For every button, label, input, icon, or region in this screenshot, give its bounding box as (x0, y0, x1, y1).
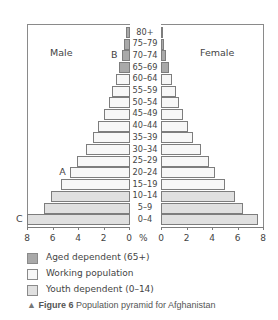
tick-label: 4 (71, 233, 85, 243)
tick-label: 6 (231, 233, 245, 243)
male-bar (93, 132, 130, 143)
female-bar (161, 203, 243, 214)
legend-swatch-youth (27, 285, 38, 296)
female-bar (161, 179, 225, 190)
tick-mark (129, 227, 130, 230)
tick-label: 6 (46, 233, 60, 243)
female-bar (161, 39, 164, 50)
tick-mark (161, 227, 162, 230)
male-bar (86, 144, 130, 155)
age-group-label: 15–19 (129, 179, 161, 191)
female-bar (161, 27, 163, 38)
female-bar (161, 50, 166, 61)
female-label: Female (200, 47, 234, 58)
tick-label: 2 (180, 233, 194, 243)
tick-mark (187, 227, 188, 230)
male-bar (77, 156, 130, 167)
male-bar (112, 86, 130, 97)
age-group-label: 25–29 (129, 155, 161, 167)
tick-label: 8 (256, 233, 270, 243)
triangle-marker-icon: ▲ (27, 300, 36, 310)
caption-text: Population pyramid for Afghanistan (76, 300, 216, 310)
legend-swatch-aged (27, 253, 38, 264)
male-bar (116, 74, 130, 85)
figure-number: Figure 6 (38, 300, 73, 310)
figure-caption: ▲ Figure 6 Population pyramid for Afghan… (27, 300, 216, 310)
tick-mark (238, 227, 239, 230)
male-bar (104, 109, 131, 120)
age-group-label: 45–49 (129, 108, 161, 120)
female-bar (161, 167, 215, 178)
age-group-label: 65–69 (129, 62, 161, 74)
tick-mark (263, 227, 264, 230)
male-label: Male (50, 47, 73, 58)
age-group-label: 0–4 (129, 214, 161, 226)
age-group-label: 20–24 (129, 167, 161, 179)
female-bar (161, 191, 235, 202)
x-axis-unit: % (139, 233, 148, 243)
legend-swatch-working (27, 269, 38, 280)
female-bar (161, 214, 258, 225)
male-bar (51, 191, 130, 202)
age-group-label: 50–54 (129, 97, 161, 109)
age-group-label: 60–64 (129, 73, 161, 85)
tick-label: 2 (97, 233, 111, 243)
legend-label-working: Working population (46, 268, 133, 278)
tick-mark (78, 227, 79, 230)
age-group-label: 40–44 (129, 120, 161, 132)
female-bar (161, 132, 193, 143)
age-group-label: 30–34 (129, 144, 161, 156)
female-bar (161, 109, 183, 120)
tick-mark (104, 227, 105, 230)
age-group-label: 80+ (129, 27, 161, 39)
age-group-label: 5–9 (129, 202, 161, 214)
tick-mark (27, 227, 28, 230)
male-bar (27, 214, 130, 225)
legend-label-youth: Youth dependent (0–14) (46, 284, 154, 294)
age-group-label: 75–79 (129, 38, 161, 50)
tick-mark (53, 227, 54, 230)
female-bar (161, 97, 179, 108)
legend-label-aged: Aged dependent (65+) (46, 252, 150, 262)
tick-label: 0 (154, 233, 168, 243)
tick-mark (212, 227, 213, 230)
tick-label: 8 (20, 233, 34, 243)
tick-label: 0 (122, 233, 136, 243)
male-bar (98, 121, 130, 132)
annotation-c: C (16, 213, 23, 224)
male-bar (70, 167, 130, 178)
age-group-label: 55–59 (129, 85, 161, 97)
male-bar (61, 179, 130, 190)
female-bar (161, 62, 169, 73)
female-bar (161, 156, 209, 167)
male-bar (109, 97, 130, 108)
female-bar (161, 74, 172, 85)
female-bar (161, 86, 176, 97)
female-bar (161, 121, 188, 132)
male-bar (44, 203, 130, 214)
tick-label: 4 (205, 233, 219, 243)
age-group-label: 70–74 (129, 50, 161, 62)
age-group-label: 10–14 (129, 190, 161, 202)
female-bar (161, 144, 201, 155)
age-group-label: 35–39 (129, 132, 161, 144)
annotation-a: A (59, 166, 66, 177)
annotation-b: B (111, 49, 118, 60)
